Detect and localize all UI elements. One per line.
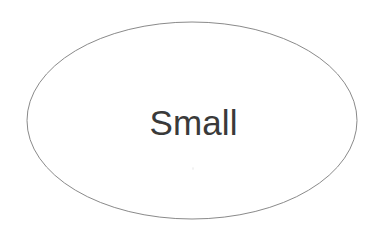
ellipse-outline[interactable]: [27, 22, 357, 219]
drawing-canvas: Small: [0, 0, 385, 242]
ellipse-shape-svg: [0, 0, 385, 242]
scan-speck-artifact: [192, 167, 194, 170]
